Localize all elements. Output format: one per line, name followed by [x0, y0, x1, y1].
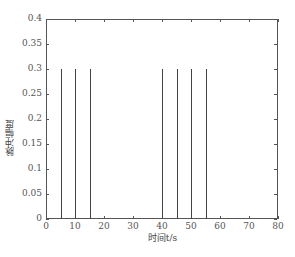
- y-axis-label: 脉冲幅度: [2, 120, 15, 156]
- y-tick-label: 0.3: [12, 63, 42, 73]
- x-tick: [162, 19, 163, 22]
- y-tick-label: 0.4: [12, 13, 42, 23]
- x-tick-label: 60: [210, 221, 230, 231]
- pulse-line: [61, 69, 62, 219]
- x-tick: [278, 19, 279, 22]
- y-tick: [274, 169, 277, 170]
- x-tick: [249, 216, 250, 219]
- y-tick: [46, 144, 49, 145]
- y-tick: [274, 219, 277, 220]
- y-tick: [46, 94, 49, 95]
- y-tick: [46, 219, 49, 220]
- y-tick-label: 0.15: [12, 138, 42, 148]
- y-tick: [274, 69, 277, 70]
- x-tick: [191, 19, 192, 22]
- x-tick: [133, 216, 134, 219]
- y-tick-label: 0.1: [12, 163, 42, 173]
- y-tick: [46, 169, 49, 170]
- y-tick: [274, 19, 277, 20]
- x-tick: [133, 19, 134, 22]
- x-tick-label: 80: [268, 221, 288, 231]
- y-tick-label: 0.2: [12, 113, 42, 123]
- y-tick: [46, 44, 49, 45]
- y-tick: [46, 69, 49, 70]
- x-tick-label: 70: [239, 221, 259, 231]
- x-tick-label: 30: [123, 221, 143, 231]
- y-tick-label: 0.05: [12, 188, 42, 198]
- y-tick-label: 0: [12, 213, 42, 223]
- x-tick-label: 40: [152, 221, 172, 231]
- x-tick: [220, 216, 221, 219]
- x-tick-label: 10: [65, 221, 85, 231]
- x-tick: [75, 19, 76, 22]
- pulse-line: [90, 69, 91, 219]
- pulse-line: [162, 69, 163, 219]
- x-tick: [278, 216, 279, 219]
- x-tick: [104, 216, 105, 219]
- x-tick: [249, 19, 250, 22]
- y-tick: [46, 19, 49, 20]
- y-tick: [46, 194, 49, 195]
- x-tick-label: 20: [94, 221, 114, 231]
- x-axis-label: 时间t/s: [0, 231, 295, 244]
- pulse-line: [191, 69, 192, 219]
- y-tick: [274, 94, 277, 95]
- pulse-line: [75, 69, 76, 219]
- y-tick-label: 0.25: [12, 88, 42, 98]
- pulse-line: [206, 69, 207, 219]
- y-tick: [274, 119, 277, 120]
- x-tick-label: 50: [181, 221, 201, 231]
- pulse-line: [177, 69, 178, 219]
- y-tick: [274, 144, 277, 145]
- y-tick: [274, 44, 277, 45]
- x-tick: [220, 19, 221, 22]
- y-tick-label: 0.35: [12, 38, 42, 48]
- y-tick: [46, 119, 49, 120]
- x-tick: [104, 19, 105, 22]
- y-tick: [274, 194, 277, 195]
